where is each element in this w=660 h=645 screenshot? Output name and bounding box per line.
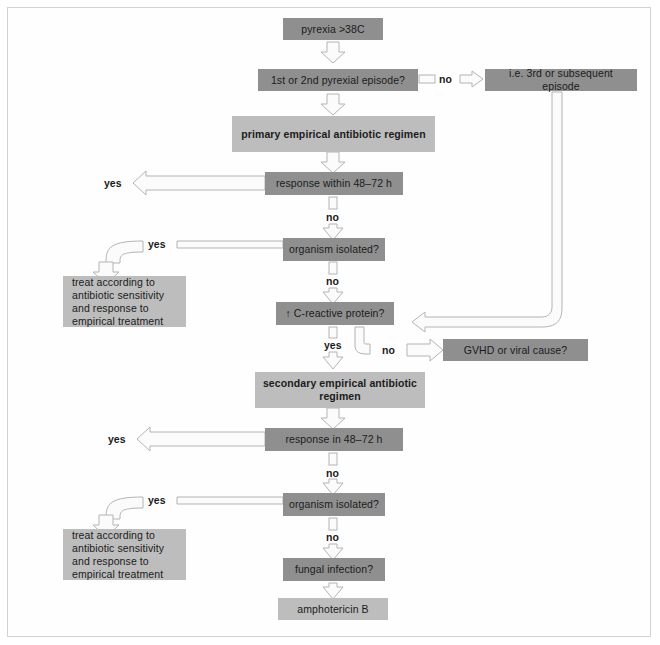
node-episode-question[interactable]: 1st or 2nd pyrexial episode? [258, 69, 418, 91]
node-primary-regimen[interactable]: primary empirical antibiotic regimen [232, 116, 435, 152]
edge-label-response2-yes: yes [108, 433, 126, 445]
node-amphotericin[interactable]: amphotericin B [278, 598, 388, 620]
edge-label-organism1-yes: yes [148, 238, 166, 250]
node-fungal-infection[interactable]: fungal infection? [283, 558, 385, 581]
edge-label-crp-yes: yes [324, 339, 342, 351]
arrow-crp-no [355, 327, 443, 361]
edge-label-organism1-no: no [326, 275, 339, 287]
edge-label-organism2-yes: yes [148, 494, 166, 506]
edge-label-organism2-no: no [326, 531, 339, 543]
arrow-crp-yes-stub [329, 327, 337, 338]
arrow-pyrexia-to-episode [321, 42, 345, 63]
node-organism-isolated-1[interactable]: organism isolated? [283, 238, 385, 261]
node-organism-isolated-2[interactable]: organism isolated? [283, 493, 385, 516]
edge-label-episode-no: no [439, 73, 452, 85]
node-pyrexia[interactable]: pyrexia >38C [283, 18, 383, 40]
node-treat-1[interactable]: treat according to antibiotic sensitivit… [63, 276, 186, 327]
arrow-episode-no-stub [419, 75, 435, 83]
flowchart-canvas: pyrexia >38C 1st or 2nd pyrexial episode… [0, 0, 660, 645]
arrow-fungal-to-amphotericin [323, 583, 343, 599]
arrow-organism2-no-stub [329, 518, 337, 530]
edge-label-response1-yes: yes [104, 177, 122, 189]
arrow-organism1-no-stub [329, 262, 337, 274]
node-response-2[interactable]: response in 48–72 h [265, 428, 403, 451]
arrow-episode-to-primary [321, 94, 345, 115]
arrow-crp-to-secondary [323, 352, 343, 369]
edge-label-response1-no: no [326, 211, 339, 223]
edge-label-response2-no: no [326, 467, 339, 479]
arrow-secondary-to-response2 [321, 408, 345, 429]
arrow-response1-yes [133, 171, 265, 195]
edge-label-crp-no: no [382, 344, 395, 356]
arrow-response2-yes [137, 427, 265, 451]
arrow-response2-no-stub [329, 453, 337, 465]
arrow-episode-no-to-third [460, 71, 483, 87]
node-treat-2[interactable]: treat according to antibiotic sensitivit… [63, 529, 186, 580]
node-response-1[interactable]: response within 48–72 h [265, 172, 403, 195]
node-third-episode[interactable]: i.e. 3rd or subsequent episode [485, 69, 637, 91]
node-gvhd[interactable]: GVHD or viral cause? [443, 339, 588, 361]
arrow-response1-no-stub [329, 197, 337, 209]
arrow-primary-to-response1 [321, 152, 345, 173]
node-secondary-regimen[interactable]: secondary empirical antibiotic regimen [255, 372, 425, 408]
node-crp[interactable]: ↑ C-reactive protein? [276, 302, 394, 325]
